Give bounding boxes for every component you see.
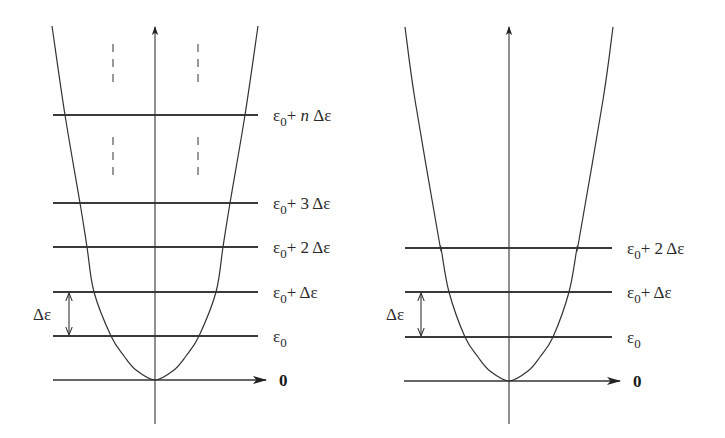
epsilon-symbol: ε bbox=[627, 239, 634, 258]
subscript-zero: 0 bbox=[634, 336, 641, 351]
label-plus: + bbox=[287, 106, 301, 125]
label-increment: + 3 Δε bbox=[287, 194, 331, 213]
energy-level-diagram: ε0ε0+ Δεε0+ 2 Δεε0+ 3 Δεε0+ n Δε0Δε ε0ε0… bbox=[0, 0, 725, 438]
energy-level-label-1: ε0+ Δε bbox=[273, 283, 318, 306]
energy-level-label-0: ε0 bbox=[273, 327, 287, 350]
spacing-delta-epsilon-label: Δε bbox=[386, 305, 404, 324]
epsilon-symbol: ε bbox=[273, 194, 280, 213]
subscript-zero: 0 bbox=[280, 335, 287, 350]
zero-energy-label: 0 bbox=[279, 371, 288, 390]
label-increment: + Δε bbox=[641, 283, 672, 302]
epsilon-symbol: ε bbox=[273, 283, 280, 302]
spacing-delta-epsilon-label: Δε bbox=[33, 305, 51, 324]
epsilon-symbol: ε bbox=[627, 283, 634, 302]
epsilon-symbol: ε bbox=[273, 327, 280, 346]
energy-level-label-2: ε0+ 2 Δε bbox=[273, 238, 330, 261]
label-increment: + 2 Δε bbox=[287, 238, 331, 257]
label-increment: + Δε bbox=[287, 283, 318, 302]
label-increment: + 2 Δε bbox=[641, 239, 685, 258]
energy-level-label-2: ε0+ 2 Δε bbox=[627, 239, 684, 262]
energy-level-label-0: ε0 bbox=[627, 328, 641, 351]
energy-level-label-3: ε0+ 3 Δε bbox=[273, 194, 330, 217]
zero-energy-label: 0 bbox=[633, 372, 642, 391]
epsilon-symbol: ε bbox=[627, 328, 634, 347]
energy-level-label-4: ε0+ n Δε bbox=[273, 106, 331, 129]
label-delta-epsilon: Δε bbox=[309, 106, 331, 125]
diagram-left-infinite-ladder: ε0ε0+ Δεε0+ 2 Δεε0+ 3 Δεε0+ n Δε0Δε bbox=[33, 26, 331, 424]
epsilon-symbol: ε bbox=[273, 238, 280, 257]
diagram-right-truncated-ladder: ε0ε0+ Δεε0+ 2 Δε0Δε bbox=[386, 27, 684, 424]
label-n-italic: n bbox=[300, 106, 309, 125]
energy-level-label-1: ε0+ Δε bbox=[627, 283, 672, 306]
epsilon-symbol: ε bbox=[273, 106, 280, 125]
